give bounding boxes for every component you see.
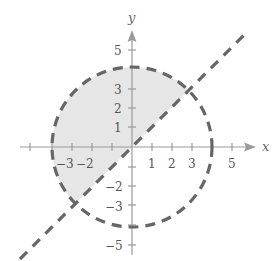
- x-tick-label: −3: [56, 157, 74, 171]
- y-axis-label: y: [127, 10, 136, 25]
- y-tick-label: 1: [114, 121, 122, 135]
- x-axis-label: x: [262, 139, 270, 154]
- x-tick-label: 1: [148, 157, 156, 171]
- y-tick-label: −5: [105, 239, 123, 253]
- y-tick-label: −2: [105, 180, 123, 194]
- x-tick-label: 5: [228, 157, 236, 171]
- y-tick-label: −3: [105, 200, 123, 214]
- y-tick-label: 3: [114, 83, 122, 97]
- x-tick-label: 2: [168, 157, 176, 171]
- graph: y x −3 −2 1 2 3 5 5 3 2 1 −2 −3 −5: [0, 0, 280, 261]
- x-tick-label: 3: [188, 157, 196, 171]
- x-tick-label: −2: [76, 157, 94, 171]
- y-tick-label: 2: [114, 102, 122, 116]
- y-tick-label: 5: [114, 44, 122, 58]
